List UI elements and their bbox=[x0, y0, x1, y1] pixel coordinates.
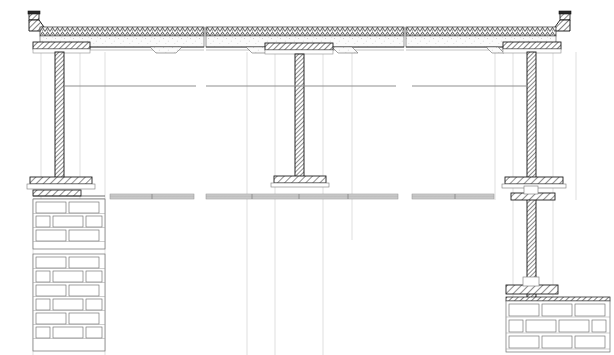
grade-bands bbox=[110, 194, 494, 199]
reference-grid-lines bbox=[33, 52, 576, 355]
panel-left bbox=[27, 11, 204, 351]
brick-footing-right bbox=[506, 301, 610, 352]
column-capital-left bbox=[33, 42, 90, 53]
column-right bbox=[527, 52, 536, 300]
grade-band-left bbox=[110, 194, 194, 199]
column-capital-middle bbox=[265, 43, 333, 54]
brick-pier-left-upper bbox=[33, 199, 105, 249]
column-base-middle bbox=[271, 176, 329, 187]
column-footing-right bbox=[506, 277, 610, 301]
panel-middle bbox=[206, 27, 404, 187]
parapet-right bbox=[555, 11, 571, 31]
panel-right bbox=[406, 11, 610, 352]
column-capital-right bbox=[503, 42, 561, 53]
column-base-left bbox=[27, 177, 95, 189]
column-left bbox=[55, 52, 64, 180]
grade-band-middle bbox=[206, 194, 398, 199]
section-drawing-canvas bbox=[0, 0, 614, 355]
grade-band-right bbox=[412, 194, 494, 199]
drawing-sheet bbox=[0, 0, 614, 355]
brick-pier-left-lower bbox=[33, 254, 105, 351]
column-middle bbox=[295, 54, 304, 178]
pier-plinth-left bbox=[33, 190, 105, 199]
